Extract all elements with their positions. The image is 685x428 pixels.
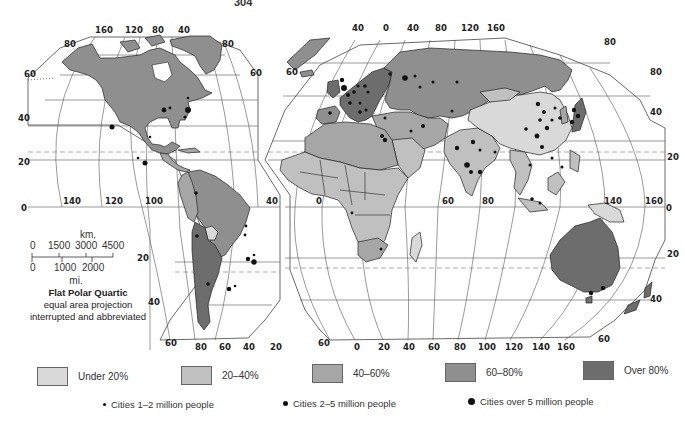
legend-40-60: 40–60% <box>312 364 390 383</box>
svg-text:80: 80 <box>195 341 207 350</box>
svg-text:40: 40 <box>178 24 190 35</box>
svg-text:20: 20 <box>18 156 30 167</box>
svg-text:100: 100 <box>145 195 163 206</box>
svg-text:160: 160 <box>487 22 505 33</box>
svg-text:60: 60 <box>250 67 262 78</box>
svg-text:140: 140 <box>604 195 622 206</box>
svg-text:40: 40 <box>352 22 364 33</box>
legend-20-40: 20–40% <box>181 366 259 385</box>
south-africa <box>358 238 388 262</box>
projection-line2: equal area projection <box>18 299 158 311</box>
svg-text:40: 40 <box>266 195 278 206</box>
scale-km-ticks: 0 1500 3000 4500 <box>18 240 158 253</box>
svg-text:40: 40 <box>650 293 662 304</box>
svg-text:60: 60 <box>428 341 440 350</box>
svg-text:40: 40 <box>18 112 30 123</box>
swatch-20-40 <box>181 366 212 385</box>
svg-text:100: 100 <box>478 341 496 350</box>
tasmania <box>586 296 592 303</box>
scale-mi-ticks: 0 1000 2000 <box>18 262 158 275</box>
svg-text:0: 0 <box>316 195 322 206</box>
svg-text:20: 20 <box>270 341 282 350</box>
svg-text:120: 120 <box>505 341 523 350</box>
projection-note: Flat Polar Quartic equal area projection… <box>18 287 158 323</box>
svg-text:20: 20 <box>667 151 679 162</box>
svg-text:0: 0 <box>383 22 389 33</box>
new-zealand <box>624 282 652 314</box>
svg-text:20: 20 <box>667 248 679 259</box>
svg-text:160: 160 <box>557 341 575 350</box>
scale-km-label: km. <box>18 229 138 240</box>
swatch-under-20 <box>37 367 68 386</box>
svg-text:120: 120 <box>105 195 123 206</box>
svg-text:60: 60 <box>286 66 298 77</box>
svg-text:80: 80 <box>604 36 616 47</box>
eastern-lobe: 40 0 40 80 120 160 60 80 80 40 20 0 20 4… <box>265 22 679 350</box>
legend-over-80: Over 80% <box>583 361 668 380</box>
southeast-asia <box>510 150 532 195</box>
svg-text:120: 120 <box>125 24 143 35</box>
svg-text:60: 60 <box>165 337 177 348</box>
svg-text:140: 140 <box>63 195 81 206</box>
svg-text:0: 0 <box>21 202 27 213</box>
svg-text:120: 120 <box>461 22 479 33</box>
svg-text:80: 80 <box>152 24 164 35</box>
svg-text:160: 160 <box>95 24 113 35</box>
svg-text:60: 60 <box>318 337 330 348</box>
projection-name: Flat Polar Quartic <box>18 287 158 299</box>
svg-text:80: 80 <box>482 195 494 206</box>
swatch-over-80 <box>583 361 614 380</box>
uk <box>327 80 340 98</box>
legend-cities-2-5m: Cities 2–5 million people <box>283 398 396 409</box>
swatch-40-60 <box>312 364 343 383</box>
svg-text:20: 20 <box>378 341 390 350</box>
legend-60-80: 60–80% <box>445 363 523 382</box>
svg-text:80: 80 <box>435 22 447 33</box>
large-city-dot-icon <box>468 398 475 405</box>
projection-line3: interrupted and abbreviated <box>18 311 158 323</box>
svg-text:60: 60 <box>219 341 231 350</box>
legend-cities-over-5m: Cities over 5 million people <box>468 396 594 407</box>
medium-city-dot-icon <box>283 401 288 406</box>
north-america <box>62 44 212 154</box>
australia <box>550 218 620 292</box>
svg-text:60: 60 <box>442 195 454 206</box>
scale-bar: km. 0 1500 3000 4500 0 1000 2000 mi. <box>18 229 158 286</box>
svg-text:0: 0 <box>666 202 672 213</box>
svg-text:140: 140 <box>532 341 550 350</box>
madagascar <box>410 232 422 262</box>
legend-cities-1-2m: Cities 1–2 million people <box>103 399 214 410</box>
svg-text:80: 80 <box>64 38 76 49</box>
swatch-60-80 <box>445 363 476 382</box>
small-city-dot-icon <box>103 403 106 406</box>
legend-under-20: Under 20% <box>37 367 128 386</box>
svg-text:40: 40 <box>407 22 419 33</box>
svg-text:40: 40 <box>243 341 255 350</box>
svg-text:160: 160 <box>645 195 663 206</box>
svg-text:60: 60 <box>24 68 36 79</box>
scale-mi-label: mi. <box>18 275 126 286</box>
india <box>444 128 500 196</box>
svg-text:0: 0 <box>354 341 360 350</box>
svg-text:80: 80 <box>650 66 662 77</box>
svg-text:40: 40 <box>650 106 662 117</box>
svg-text:80: 80 <box>454 341 466 350</box>
svg-text:60: 60 <box>598 333 610 344</box>
svg-text:80: 80 <box>222 38 234 49</box>
central-america <box>160 153 190 172</box>
scale-line <box>18 253 158 262</box>
svg-text:40: 40 <box>403 341 415 350</box>
